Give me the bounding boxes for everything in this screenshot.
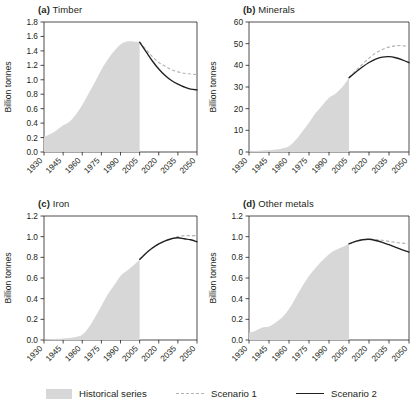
y-tick-label: 0.2 [26, 133, 38, 143]
y-axis-title: Billion tonnes [208, 61, 218, 112]
y-tick-label: 0.4 [26, 118, 38, 128]
x-tick-label: 1930 [229, 343, 249, 363]
legend-label-scenario-1: Scenario 1 [211, 388, 257, 399]
scenario-1-line-icon [176, 393, 204, 394]
x-tick-label: 2050 [177, 155, 197, 175]
historical-series-area [249, 244, 349, 340]
figure-container: (a) Timber Billion tonnes0.00.20.40.60.8… [0, 0, 417, 415]
historical-series-area [249, 78, 349, 152]
legend-item-scenario-1: Scenario 1 [176, 388, 257, 399]
y-tick-label: 1.2 [26, 60, 38, 70]
x-tick-label: 1960 [63, 155, 83, 175]
x-tick-label: 1975 [82, 343, 102, 363]
x-tick-label: 2050 [177, 343, 197, 363]
x-tick-label: 1960 [63, 343, 83, 363]
y-tick-label: 0.4 [231, 294, 243, 304]
y-tick-label: 40 [234, 60, 244, 70]
x-tick-label: 1930 [24, 155, 44, 175]
x-tick-label: 1975 [289, 343, 309, 363]
y-tick-label: 0.6 [26, 104, 38, 114]
panel-grid: (a) Timber Billion tonnes0.00.20.40.60.8… [0, 0, 417, 382]
y-tick-label: 0.4 [26, 294, 38, 304]
y-tick-label: 1.4 [26, 46, 38, 56]
scenario-2-line [349, 57, 409, 78]
scenario-2-line-icon [296, 393, 324, 394]
y-tick-label: 1.0 [26, 232, 38, 242]
x-tick-label: 2020 [139, 343, 159, 363]
historical-series-area [44, 259, 140, 340]
y-axis-title: Billion tonnes [208, 252, 218, 303]
x-tick-label: 1930 [24, 343, 44, 363]
panel-a-timber: (a) Timber Billion tonnes0.00.20.40.60.8… [0, 0, 205, 194]
y-tick-label: 0.8 [26, 252, 38, 262]
x-tick-label: 1990 [101, 155, 121, 175]
y-tick-label: 1.2 [26, 211, 38, 221]
x-tick-label: 1945 [249, 343, 269, 363]
x-tick-label: 1960 [269, 343, 289, 363]
y-tick-label: 0.2 [26, 314, 38, 324]
panel-d-other-metals: (d) Other metals Billion tonnes0.00.20.4… [205, 194, 417, 382]
y-tick-label: 60 [234, 17, 244, 27]
y-tick-label: 30 [234, 82, 244, 92]
x-tick-label: 1975 [82, 155, 102, 175]
x-tick-label: 1945 [43, 155, 63, 175]
scenario-2-line [140, 238, 197, 260]
y-tick-label: 50 [234, 39, 244, 49]
x-tick-label: 2005 [120, 155, 140, 175]
y-tick-label: 0.6 [26, 273, 38, 283]
x-tick-label: 1945 [43, 343, 63, 363]
y-tick-label: 1.0 [26, 75, 38, 85]
panel-c-iron: (c) Iron Billion tonnes0.00.20.40.60.81.… [0, 194, 205, 382]
y-tick-label: 0.6 [231, 273, 243, 283]
x-tick-label: 1990 [309, 343, 329, 363]
y-tick-label: 0.8 [26, 89, 38, 99]
x-tick-label: 1930 [229, 155, 249, 175]
x-tick-label: 2020 [139, 155, 159, 175]
panel-d-plot: Billion tonnes0.00.20.40.60.81.01.219301… [205, 194, 417, 382]
x-tick-label: 2005 [329, 155, 349, 175]
scenario-2-line [349, 239, 409, 252]
x-tick-label: 2050 [389, 343, 409, 363]
x-tick-label: 2035 [369, 343, 389, 363]
x-tick-label: 2020 [349, 155, 369, 175]
x-tick-label: 1945 [249, 155, 269, 175]
historical-series-area [44, 41, 140, 152]
x-tick-label: 1975 [289, 155, 309, 175]
legend-label-historical: Historical series [79, 388, 147, 399]
x-tick-label: 2035 [369, 155, 389, 175]
panel-b-plot: Billion tonnes01020304050601930194519601… [205, 0, 417, 194]
legend-item-historical: Historical series [46, 388, 147, 399]
y-tick-label: 10 [234, 125, 244, 135]
x-tick-label: 1990 [101, 343, 121, 363]
y-tick-label: 1.2 [231, 211, 243, 221]
x-tick-label: 2035 [158, 155, 178, 175]
panel-a-plot: Billion tonnes0.00.20.40.60.81.01.21.41.… [0, 0, 205, 194]
x-tick-label: 1990 [309, 155, 329, 175]
y-tick-label: 0.8 [231, 252, 243, 262]
y-tick-label: 1.0 [231, 232, 243, 242]
historical-series-swatch-icon [46, 389, 72, 399]
y-axis-title: Billion tonnes [3, 61, 13, 112]
panel-c-plot: Billion tonnes0.00.20.40.60.81.01.219301… [0, 194, 205, 382]
legend-label-scenario-2: Scenario 2 [331, 388, 377, 399]
legend-item-scenario-2: Scenario 2 [296, 388, 377, 399]
scenario-2-line [140, 42, 197, 90]
x-tick-label: 2005 [120, 343, 140, 363]
y-tick-label: 20 [234, 104, 244, 114]
x-tick-label: 2050 [389, 155, 409, 175]
scenario-1-line [349, 46, 409, 78]
x-tick-label: 1960 [269, 155, 289, 175]
y-tick-label: 1.6 [26, 31, 38, 41]
x-tick-label: 2035 [158, 343, 178, 363]
x-tick-label: 2005 [329, 343, 349, 363]
figure-legend: Historical series Scenario 1 Scenario 2 [0, 382, 417, 415]
y-tick-label: 1.8 [26, 17, 38, 27]
x-tick-label: 2020 [349, 343, 369, 363]
scenario-1-line [140, 42, 197, 75]
panel-b-minerals: (b) Minerals Billion tonnes0102030405060… [205, 0, 417, 194]
y-tick-label: 0.2 [231, 314, 243, 324]
y-axis-title: Billion tonnes [3, 252, 13, 303]
